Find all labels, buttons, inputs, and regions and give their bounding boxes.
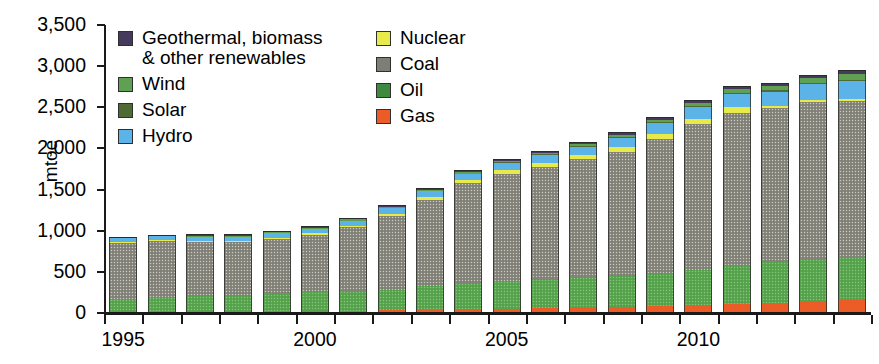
legend-item-wind[interactable]: Wind (118, 74, 368, 94)
bar-segment-oil (224, 296, 252, 312)
bar-1996 (148, 235, 176, 313)
legend-swatch-solar-icon (118, 103, 133, 118)
x-axis-tick-mark (104, 315, 106, 324)
bar-segment-coal (799, 102, 827, 258)
x-axis-tick-mark (718, 315, 720, 324)
x-axis-tick-mark (411, 315, 413, 324)
bar-segment-oil (109, 299, 137, 312)
legend-label: Solar (142, 100, 186, 120)
x-axis-tick-label: 2005 (477, 328, 537, 351)
bar-segment-oil (416, 286, 444, 309)
bar-segment-coal (684, 124, 712, 270)
bar-2007 (569, 142, 597, 313)
legend-label: Hydro (142, 126, 193, 146)
bar-segment-oil (684, 270, 712, 305)
x-axis-tick-mark (296, 315, 298, 324)
bar-segment-hydro (493, 163, 521, 170)
bar-segment-coal (109, 243, 137, 299)
legend-item-geothermal[interactable]: Geothermal, biomass & other renewables (118, 28, 368, 68)
bar-segment-coal (148, 241, 176, 297)
x-axis-tick-label: 2000 (285, 328, 345, 351)
y-axis-tick-label: 0 (12, 303, 86, 323)
bar-2014 (838, 70, 866, 313)
legend-label: Coal (400, 54, 439, 74)
bar-2008 (608, 132, 636, 313)
legend-item-hydro[interactable]: Hydro (118, 126, 368, 146)
bar-segment-hydro (608, 138, 636, 148)
x-axis-tick-mark (181, 315, 183, 324)
bar-2010 (684, 100, 712, 313)
bar-segment-oil (263, 294, 291, 311)
bar-segment-hydro (723, 94, 751, 107)
x-axis-tick-mark (641, 315, 643, 324)
legend-label: Geothermal, biomass & other renewables (142, 28, 323, 68)
x-axis-tick-mark (833, 315, 835, 324)
legend-label: Oil (400, 80, 423, 100)
x-axis-tick-mark (372, 315, 374, 324)
legend-item-gas[interactable]: Gas (376, 106, 546, 126)
bar-segment-coal (416, 200, 444, 287)
bar-segment-oil (761, 262, 789, 302)
x-axis-tick-mark (679, 315, 681, 324)
bar-segment-hydro (569, 147, 597, 156)
bar-segment-oil (838, 257, 866, 301)
legend-swatch-gas-icon (376, 109, 391, 124)
bar-1995 (109, 237, 137, 313)
bar-segment-oil (148, 297, 176, 311)
bar-1997 (186, 234, 214, 313)
bar-segment-hydro (799, 84, 827, 100)
bar-segment-hydro (646, 123, 674, 134)
legend-item-coal[interactable]: Coal (376, 54, 546, 74)
x-axis-tick-mark (219, 315, 221, 324)
x-axis-tick-mark (871, 315, 873, 324)
bar-segment-oil (646, 274, 674, 307)
bar-segment-oil (378, 290, 406, 311)
y-axis-tick-label: 2,000 (12, 138, 86, 158)
legend-swatch-wind-icon (118, 77, 133, 92)
bar-segment-oil (454, 283, 482, 309)
legend-label: Nuclear (400, 28, 465, 48)
legend-item-oil[interactable]: Oil (376, 80, 546, 100)
bar-segment-hydro (761, 92, 789, 106)
bar-segment-coal (224, 242, 252, 295)
x-axis-tick-mark (756, 315, 758, 324)
legend-label: Wind (142, 74, 185, 94)
bar-2004 (454, 170, 482, 313)
y-axis-tick-label: 3,000 (12, 56, 86, 76)
bar-2002 (378, 205, 406, 313)
legend-item-nuclear[interactable]: Nuclear (376, 28, 546, 48)
bar-segment-oil (301, 292, 329, 311)
bar-segment-oil (493, 281, 521, 309)
legend-swatch-oil-icon (376, 83, 391, 98)
bar-2005 (493, 159, 521, 313)
bar-segment-coal (493, 174, 521, 281)
legend-item-solar[interactable]: Solar (118, 100, 368, 120)
legend-column-left: Geothermal, biomass & other renewablesWi… (118, 28, 368, 152)
x-axis-tick-mark (334, 315, 336, 324)
bar-segment-coal (454, 183, 482, 283)
bar-segment-hydro (454, 174, 482, 181)
bar-segment-coal (378, 216, 406, 290)
bar-segment-coal (263, 239, 291, 294)
bar-2012 (761, 83, 789, 313)
bar-segment-coal (531, 167, 559, 279)
bar-segment-oil (339, 291, 367, 310)
bar-segment-hydro (684, 107, 712, 119)
x-axis-tick-mark (142, 315, 144, 324)
bar-segment-coal (569, 159, 597, 277)
x-axis-tick-mark (564, 315, 566, 324)
bar-1998 (224, 234, 252, 313)
bar-segment-oil (799, 259, 827, 302)
bar-segment-oil (531, 279, 559, 308)
bar-segment-coal (339, 227, 367, 291)
bar-2000 (301, 226, 329, 313)
bar-2011 (723, 86, 751, 313)
bar-2001 (339, 218, 367, 313)
bar-segment-coal (301, 235, 329, 293)
bar-segment-coal (761, 108, 789, 263)
x-axis-tick-mark (449, 315, 451, 324)
bar-segment-hydro (838, 81, 866, 99)
bar-segment-coal (723, 113, 751, 266)
x-axis-tick-label: 2010 (668, 328, 728, 351)
legend-swatch-nuclear-icon (376, 31, 391, 46)
